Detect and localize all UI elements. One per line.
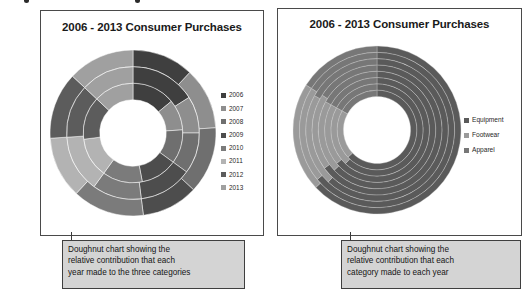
page-title-left: 2006 - 2013 Consumer Purchases — [41, 21, 263, 33]
caption-text-right: Doughnut chart showing the relative cont… — [347, 244, 515, 278]
chart-panel-right: 2006 - 2013 Consumer Purchases Equipment… — [277, 8, 522, 236]
clipped-text-marks — [0, 0, 524, 6]
legend-label: 2010 — [229, 145, 243, 151]
legend-label: Footwear — [472, 132, 500, 139]
legend-swatch-icon — [221, 119, 226, 124]
caption-box-right: Doughnut chart showing the relative cont… — [341, 240, 521, 289]
legend-label: 2009 — [229, 132, 243, 138]
doughnut-chart-by-year — [49, 43, 217, 223]
doughnut-svg — [292, 39, 462, 221]
legend-item-footwear[interactable]: Footwear — [464, 128, 504, 143]
legend-item-2013[interactable]: 2013 — [221, 181, 243, 194]
legend-item-2011[interactable]: 2011 — [221, 155, 243, 168]
legend-years: 20062007200820092010201120122013 — [221, 89, 243, 195]
legend-item-2007[interactable]: 2007 — [221, 102, 243, 115]
legend-swatch-icon — [221, 172, 226, 177]
doughnut-svg — [49, 43, 217, 223]
legend-item-2008[interactable]: 2008 — [221, 115, 243, 128]
legend-item-equipment[interactable]: Equipment — [464, 113, 504, 128]
legend-item-2009[interactable]: 2009 — [221, 129, 243, 142]
legend-swatch-icon — [221, 133, 226, 138]
legend-label: 2013 — [229, 185, 243, 191]
doughnut-chart-by-category — [292, 39, 462, 221]
legend-item-2010[interactable]: 2010 — [221, 142, 243, 155]
clipped-glyph-dot — [24, 0, 29, 3]
legend-swatch-icon — [464, 148, 469, 153]
chart-panel-left: 2006 - 2013 Consumer Purchases 200620072… — [40, 10, 264, 236]
legend-label: 2008 — [229, 119, 243, 125]
legend-label: 2012 — [229, 172, 243, 178]
caption-text-left: Doughnut chart showing the relative cont… — [68, 244, 239, 278]
legend-swatch-icon — [221, 146, 226, 151]
legend-swatch-icon — [221, 93, 226, 98]
legend-label: Equipment — [472, 117, 504, 124]
legend-item-2012[interactable]: 2012 — [221, 168, 243, 181]
page-title-right: 2006 - 2013 Consumer Purchases — [278, 18, 521, 30]
legend-label: 2006 — [229, 92, 243, 98]
clipped-glyph-dot — [135, 0, 140, 3]
legend-swatch-icon — [464, 133, 469, 138]
legend-label: 2007 — [229, 106, 243, 112]
legend-label: Apparel — [472, 147, 495, 154]
legend-swatch-icon — [221, 106, 226, 111]
legend-swatch-icon — [221, 159, 226, 164]
legend-item-apparel[interactable]: Apparel — [464, 143, 504, 158]
legend-label: 2011 — [229, 158, 243, 164]
legend-swatch-icon — [464, 118, 469, 123]
caption-box-left: Doughnut chart showing the relative cont… — [62, 240, 245, 289]
legend-categories: EquipmentFootwearApparel — [464, 113, 504, 158]
legend-swatch-icon — [221, 185, 226, 190]
legend-item-2006[interactable]: 2006 — [221, 89, 243, 102]
